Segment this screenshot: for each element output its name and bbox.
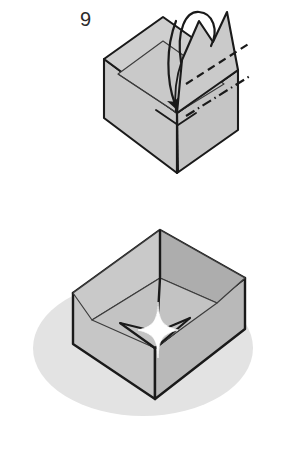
instruction-page: 9: [0, 0, 287, 460]
step-9-illustration: [0, 0, 287, 185]
step-10-illustration: [0, 180, 287, 460]
step-10-figure: 10: [0, 180, 287, 460]
flap-spine-edge: [177, 113, 178, 173]
step-9-figure: 9: [0, 0, 287, 185]
